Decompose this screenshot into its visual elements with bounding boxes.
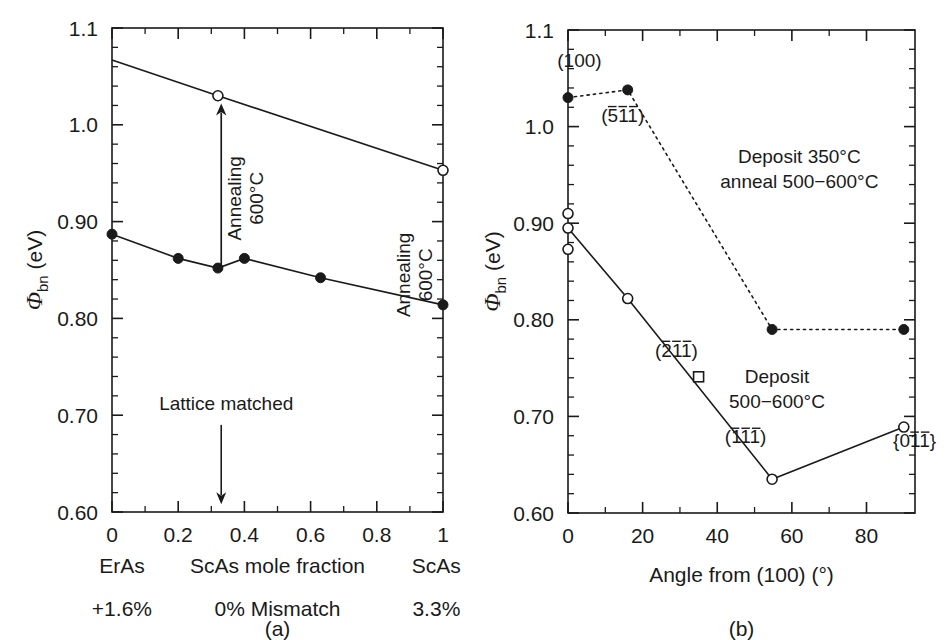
annealing-center-text: Annealing600°C: [224, 156, 267, 241]
label-511: (511): [601, 105, 644, 126]
series-group-b: [563, 85, 909, 484]
data-point-square: [694, 372, 704, 382]
footer-right-material: ScAs: [412, 554, 461, 577]
data-point-open: [563, 244, 573, 254]
y-axis-ticks: 0.600.700.800.901.01.1: [57, 17, 443, 524]
y-tick-label: 1.0: [525, 115, 554, 138]
x-tick-label: 1: [437, 523, 449, 546]
svg-text:600°C: 600°C: [415, 248, 436, 301]
note-line-2: 500−600°C: [729, 391, 825, 412]
data-point-open: [563, 209, 573, 219]
label-211: (211): [655, 340, 698, 361]
data-point-open: [213, 91, 223, 101]
note-line-2: anneal 500−600°C: [720, 171, 878, 192]
x-tick-label: 40: [706, 524, 729, 547]
svg-text:(111): (111): [725, 426, 767, 447]
y-tick-label: 0.70: [513, 405, 554, 428]
phi-subscript: bn: [492, 277, 509, 294]
data-point-filled: [316, 273, 326, 283]
svg-text:Annealing: Annealing: [224, 156, 245, 241]
series-annealed-line: [112, 60, 443, 170]
x-tick-label: 0.8: [362, 523, 391, 546]
footer-left-mismatch: +1.6%: [92, 597, 152, 620]
y-tick-label: 1.1: [69, 17, 98, 40]
svg-text:600°C: 600°C: [246, 172, 267, 225]
svg-text:{011}: {011}: [893, 430, 936, 451]
x-tick-label: 60: [780, 524, 803, 547]
y-tick-label: 1.0: [69, 113, 98, 136]
lattice-matched-annotation: Lattice matched: [159, 393, 293, 504]
panel-a-footer: ErAsScAs mole fractionScAs+1.6%0% Mismat…: [92, 554, 461, 620]
y-tick-label: 0.60: [513, 502, 554, 525]
svg-text:Annealing: Annealing: [393, 233, 414, 318]
data-point-open: [438, 165, 448, 175]
panel-a-caption: (a): [265, 617, 291, 640]
y-tick-label: 0.60: [57, 501, 98, 524]
y-tick-label: 0.70: [57, 404, 98, 427]
figure-root: 0.600.700.800.901.01.100.20.40.60.81Φbn …: [0, 0, 947, 640]
data-point-open: [767, 474, 777, 484]
x-tick-label: 80: [855, 524, 878, 547]
svg-text:Φbn (eV): Φbn (eV): [479, 231, 509, 311]
label-100: (100): [557, 50, 601, 71]
data-point-open: [563, 223, 573, 233]
svg-text:Φbn (eV): Φbn (eV): [21, 230, 51, 310]
phi-subscript: bn: [34, 275, 51, 292]
y-tick-label: 0.80: [513, 308, 554, 331]
data-point-filled: [173, 253, 183, 263]
panel-a-plot: 0.600.700.800.901.01.100.20.40.60.81Φbn …: [0, 0, 470, 640]
y-axis-ticks: 0.600.700.800.901.01.1: [513, 19, 915, 525]
data-point-filled: [767, 324, 777, 334]
y-axis-label-a: Φbn (eV): [21, 230, 51, 310]
data-point-filled: [438, 300, 448, 310]
x-tick-label: 0: [562, 524, 574, 547]
x-tick-label: 0.4: [230, 523, 260, 546]
y-tick-label: 0.80: [57, 307, 98, 330]
y-tick-label: 1.1: [525, 19, 554, 42]
phi-symbol: Φ: [21, 292, 47, 310]
note-line-1: Deposit: [745, 366, 810, 387]
x-tick-label: 0: [106, 523, 118, 546]
data-point-filled: [563, 93, 573, 103]
data-point-filled: [107, 229, 117, 239]
phi-symbol: Φ: [479, 293, 505, 311]
y-tick-label: 0.90: [57, 210, 98, 233]
phi-units: (eV): [481, 231, 504, 277]
x-axis-label-b: Angle from (100) (°): [649, 563, 834, 586]
note-line-1: Deposit 350°C: [738, 146, 861, 167]
svg-text:(211): (211): [655, 340, 698, 361]
panel-b: 0.600.700.800.901.01.1020406080Φbn (eV)(…: [470, 0, 947, 640]
data-point-filled: [899, 324, 909, 334]
footer-center-material: ScAs mole fraction: [190, 554, 365, 577]
panel-b-caption: (b): [729, 617, 755, 640]
data-point-open: [623, 294, 633, 304]
label-111: (111): [725, 426, 767, 447]
data-point-filled: [239, 253, 249, 263]
svg-text:(511): (511): [601, 105, 644, 126]
footer-right-mismatch: 3.3%: [412, 597, 460, 620]
x-tick-label: 0.2: [164, 523, 193, 546]
phi-units: (eV): [23, 230, 46, 276]
panel-a: 0.600.700.800.901.01.100.20.40.60.81Φbn …: [0, 0, 470, 640]
label-011: {011}: [893, 430, 936, 451]
data-point-filled: [623, 85, 633, 95]
lattice-matched-label: Lattice matched: [159, 393, 293, 414]
deposit-anneal-note: Deposit 350°Canneal 500−600°C: [720, 146, 878, 192]
x-tick-label: 20: [631, 524, 654, 547]
footer-left-material: ErAs: [99, 554, 145, 577]
deposit-note: Deposit500−600°C: [729, 366, 825, 412]
series-deposit350-line: [568, 90, 904, 330]
y-tick-label: 0.90: [513, 212, 554, 235]
x-tick-label: 0.6: [296, 523, 325, 546]
y-axis-label-b: Φbn (eV): [479, 231, 509, 311]
panel-b-plot: 0.600.700.800.901.01.1020406080Φbn (eV)(…: [470, 0, 947, 640]
annealing-right-text: Annealing600°C: [393, 233, 436, 318]
